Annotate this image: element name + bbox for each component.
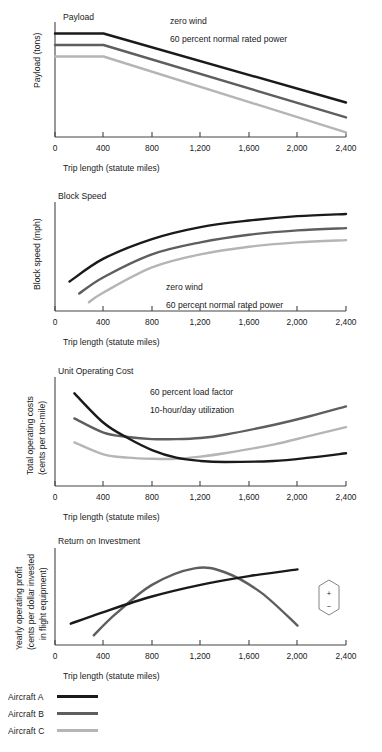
legend-swatch — [57, 729, 98, 732]
chart-panel-payload: Payload zero wind 60 percent normal rate… — [0, 0, 382, 180]
x-axis-label: Trip length (statute miles) — [63, 671, 160, 681]
plus-icon: + — [327, 589, 332, 598]
x-tick-label: 800 — [145, 143, 159, 153]
x-axis-label: Trip length (statute miles) — [63, 337, 160, 347]
y-axis-label: Block speed (mph) — [32, 218, 42, 290]
legend-item-aircraft-c: Aircraft C — [0, 722, 382, 739]
chart-panel-block-speed: Block Speed zero wind 60 percent normal … — [0, 180, 382, 355]
block-speed-chart-svg: Block Speed zero wind 60 percent normal … — [0, 180, 382, 355]
x-tick-label: 1,600 — [239, 143, 260, 153]
x-tick-label: 2,400 — [336, 317, 357, 327]
x-tick-label: 400 — [96, 143, 110, 153]
x-axis-ticks — [55, 640, 346, 645]
x-tick-label: 1,600 — [239, 651, 260, 661]
chart-annotation-1: 60 percent normal rated power — [166, 300, 283, 310]
x-tick-label: 400 — [96, 651, 110, 661]
x-tick-label: 2,000 — [287, 143, 308, 153]
chart-title: Block Speed — [58, 191, 106, 201]
x-tick-label: 400 — [96, 492, 110, 502]
chart-title: Return on Investment — [58, 536, 141, 546]
y-axis-label-line-3: in flight equipment) — [38, 567, 48, 640]
x-axis-ticks — [55, 481, 346, 486]
series-line-aircraft-c — [55, 57, 346, 133]
plus-minus-marker: + − — [319, 580, 339, 615]
x-axis-tick-labels: 0 400 800 1,200 1,600 2,000 2,400 — [53, 317, 357, 327]
x-axis-tick-labels: 0 400 800 1,200 1,600 2,000 2,400 — [53, 492, 357, 502]
return-on-investment-chart-svg: Return on Investment Yearly operating pr… — [0, 530, 382, 688]
unit-operating-cost-chart-svg: Unit Operating Cost 60 percent load fact… — [0, 355, 382, 530]
x-tick-label: 1,200 — [190, 317, 211, 327]
x-axis-tick-labels: 0 400 800 1,200 1,600 2,000 2,400 — [53, 143, 357, 153]
x-tick-label: 1,200 — [190, 143, 211, 153]
series-lines — [70, 214, 346, 302]
figure-page: Payload zero wind 60 percent normal rate… — [0, 0, 382, 752]
series-lines — [74, 393, 346, 462]
x-tick-label: 2,400 — [336, 651, 357, 661]
x-tick-label: 800 — [145, 492, 159, 502]
x-axis-ticks — [55, 132, 346, 137]
x-tick-label: 0 — [53, 143, 58, 153]
x-axis-tick-labels: 0 400 800 1,200 1,600 2,000 2,400 — [53, 651, 357, 661]
chart-annotation-1: 10-hour/day utilization — [150, 405, 234, 415]
x-tick-label: 800 — [145, 651, 159, 661]
x-tick-label: 1,600 — [239, 492, 260, 502]
series-line-aircraft-a — [70, 214, 346, 282]
chart-panel-unit-operating-cost: Unit Operating Cost 60 percent load fact… — [0, 355, 382, 530]
series-lines — [55, 34, 346, 133]
x-axis-label: Trip length (statute miles) — [63, 163, 160, 173]
chart-title: Payload — [63, 12, 94, 22]
y-axis-label-line-1: Yearly operating profit — [14, 566, 24, 650]
series-line-aircraft-a — [74, 393, 346, 462]
x-tick-label: 2,000 — [287, 317, 308, 327]
series-lines — [71, 568, 298, 636]
x-tick-label: 1,200 — [190, 651, 211, 661]
x-tick-label: 0 — [53, 492, 58, 502]
chart-annotation-0: zero wind — [166, 282, 203, 292]
x-tick-label: 2,000 — [287, 651, 308, 661]
x-tick-label: 0 — [53, 317, 58, 327]
chart-annotation-1: 60 percent normal rated power — [170, 34, 287, 44]
x-axis-label: Trip length (statute miles) — [63, 512, 160, 522]
x-tick-label: 1,200 — [190, 492, 211, 502]
minus-icon: − — [327, 602, 332, 611]
legend-swatch — [57, 712, 98, 715]
series-line-aircraft-a — [71, 569, 298, 623]
chart-annotation-0: 60 percent load factor — [150, 387, 233, 397]
payload-chart-svg: Payload zero wind 60 percent normal rate… — [0, 0, 382, 180]
series-line-aircraft-c — [89, 240, 346, 302]
legend-swatch — [57, 695, 98, 698]
chart-annotation-0: zero wind — [170, 16, 207, 26]
y-axis-label: Payload (tons) — [32, 32, 42, 88]
x-tick-label: 800 — [145, 317, 159, 327]
x-tick-label: 2,400 — [336, 143, 357, 153]
x-tick-label: 2,400 — [336, 492, 357, 502]
legend-label: Aircraft B — [0, 709, 50, 719]
legend: Aircraft A Aircraft B Aircraft C — [0, 688, 382, 739]
legend-item-aircraft-b: Aircraft B — [0, 705, 382, 722]
legend-label: Aircraft A — [0, 692, 50, 702]
y-axis-label-line-2: (cents per dollar invested — [26, 554, 36, 650]
x-tick-label: 400 — [96, 317, 110, 327]
legend-label: Aircraft C — [0, 726, 50, 736]
y-axis-label-line-1: Total operating costs — [25, 396, 35, 475]
x-tick-label: 0 — [53, 651, 58, 661]
chart-title: Unit Operating Cost — [58, 366, 134, 376]
series-line-aircraft-b — [94, 568, 298, 636]
chart-panel-return-on-investment: Return on Investment Yearly operating pr… — [0, 530, 382, 688]
x-tick-label: 2,000 — [287, 492, 308, 502]
x-tick-label: 1,600 — [239, 317, 260, 327]
legend-item-aircraft-a: Aircraft A — [0, 688, 382, 705]
x-axis-ticks — [55, 306, 346, 311]
y-axis-label-line-2: (cents per ton-mile) — [37, 401, 47, 475]
